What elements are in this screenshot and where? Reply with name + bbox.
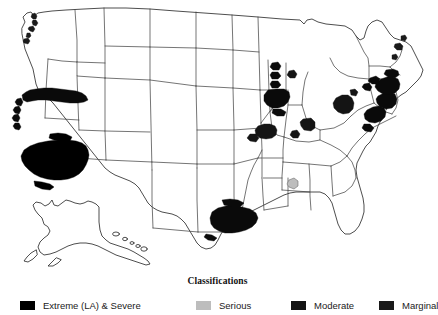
legend-label-marginal: Marginal — [402, 300, 438, 311]
legend-label-moderate: Moderate — [314, 300, 354, 311]
legend-entry-serious: Serious — [196, 298, 251, 312]
extreme-severe-swatch — [20, 301, 35, 310]
serious-swatch — [196, 301, 211, 310]
moderate-swatch — [291, 301, 306, 310]
area-milwaukee-wi — [270, 62, 281, 88]
legend-entry-moderate: Moderate — [291, 298, 354, 312]
alaska-inset — [24, 200, 150, 266]
legend-title: Classifications — [0, 276, 435, 286]
area-southern-california-la — [21, 133, 89, 190]
legend-entry-extreme-severe: Extreme (LA) & Severe — [20, 298, 141, 312]
marginal-swatch — [379, 301, 394, 310]
legend-label-serious: Serious — [219, 300, 251, 311]
us-map-graphic — [0, 0, 435, 272]
map-legend: Classifications Extreme (LA) & Severe Se… — [0, 272, 435, 315]
legend-entry-marginal: Marginal — [379, 298, 438, 312]
legend-label-extreme-severe: Extreme (LA) & Severe — [43, 300, 141, 311]
